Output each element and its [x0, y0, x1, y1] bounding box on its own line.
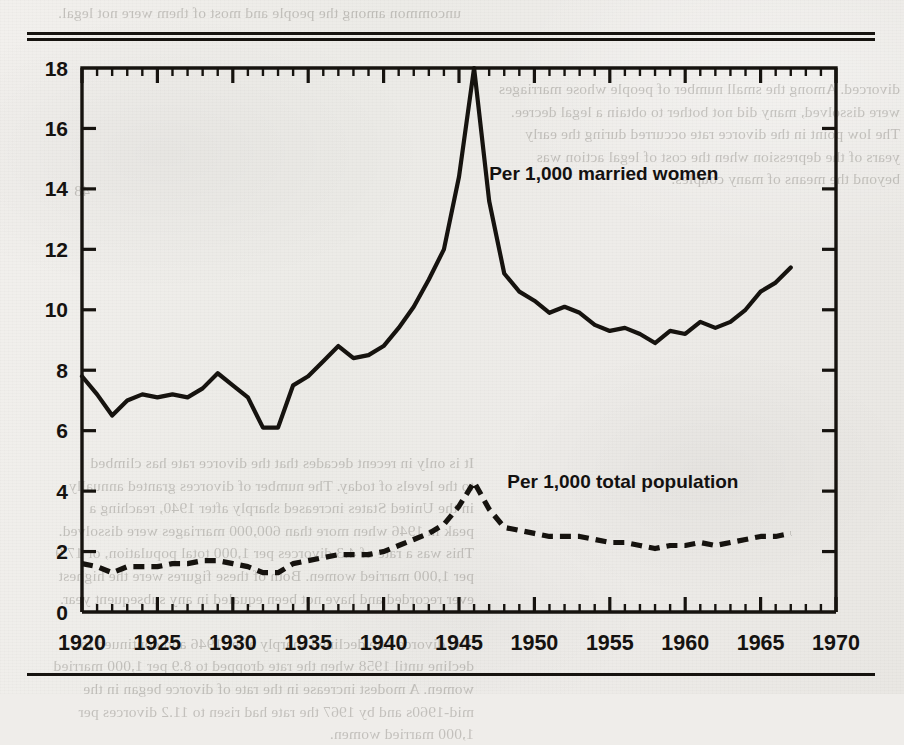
series-annotation-layer: Per 1,000 married womenPer 1,000 total p… — [489, 163, 738, 492]
y-axis-tick-label: 14 — [45, 177, 69, 200]
y-axis-tick-label: 4 — [56, 480, 68, 503]
x-axis-tick-label: 1965 — [737, 631, 785, 655]
x-axis-tick-label: 1960 — [661, 631, 709, 655]
x-axis-tick-label: 1930 — [209, 631, 257, 655]
x-axis-tick-label: 1950 — [510, 631, 558, 655]
series-line-1 — [82, 68, 791, 428]
y-axis-tick-label: 16 — [45, 117, 68, 140]
y-axis-tick-label: 12 — [45, 238, 68, 261]
y-axis-tick-label: 6 — [56, 419, 68, 442]
x-axis-tick-labels: 1920192519301935194019451950195519601965… — [58, 631, 860, 655]
x-axis-tick-label: 1935 — [284, 631, 332, 655]
series-label-1: Per 1,000 married women — [489, 163, 718, 184]
x-axis-tick-label: 1945 — [435, 631, 483, 655]
x-axis-tick-label: 1970 — [812, 631, 860, 655]
data-series-layer — [82, 68, 791, 573]
series-line-2 — [82, 482, 791, 573]
y-axis-tick-label: 2 — [56, 540, 68, 563]
y-axis-tick-label: 18 — [45, 57, 69, 80]
y-axis-tick-label: 8 — [56, 359, 68, 382]
series-label-2: Per 1,000 total population — [507, 471, 738, 492]
y-axis-tick-label: 0 — [56, 601, 68, 624]
x-axis-tick-label: 1955 — [586, 631, 634, 655]
y-axis-tick-labels: 024681012141618 — [45, 57, 69, 624]
x-axis-tick-label: 1920 — [58, 631, 106, 655]
x-axis-tick-label: 1925 — [133, 631, 181, 655]
x-axis-ticks — [82, 68, 836, 612]
plot-frame — [82, 68, 836, 612]
y-axis-tick-label: 10 — [45, 298, 68, 321]
x-axis-tick-label: 1940 — [360, 631, 408, 655]
